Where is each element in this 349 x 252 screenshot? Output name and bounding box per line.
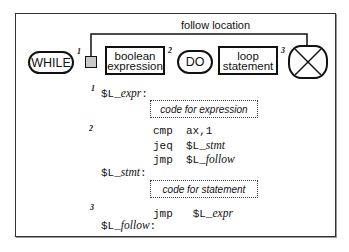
- label-stmt: $L_stmt:: [101, 166, 147, 179]
- do-node: DO: [177, 50, 213, 74]
- line-jmp-expr: jmp $L_expr: [153, 207, 233, 220]
- line-jmp-follow: jmp $L_follow: [153, 153, 235, 166]
- code-for-expression-box: code for expression: [150, 100, 258, 118]
- while-node: WHILE: [28, 51, 74, 74]
- code-for-statement-label: code for statement: [163, 184, 246, 195]
- end-x-icon: [288, 45, 328, 79]
- loop-statement-node: loop statement: [218, 46, 278, 75]
- boolean-label-line1: boolean: [115, 51, 156, 61]
- loop-label-line2: statement: [223, 61, 274, 71]
- entry-square-icon: [85, 56, 97, 68]
- marker-2: 2: [168, 46, 172, 55]
- marker-1: 1: [77, 47, 81, 56]
- code-for-expression-label: code for expression: [160, 104, 247, 115]
- marker-3: 3: [281, 46, 285, 55]
- while-label: WHILE: [31, 56, 71, 70]
- step-3-marker: 3: [90, 203, 94, 212]
- line-jeq: jeq $L_stmt: [153, 139, 225, 152]
- step-2-marker: 2: [89, 124, 93, 133]
- label-expr: $L_expr:: [101, 87, 148, 100]
- step-1-marker: 1: [91, 84, 95, 93]
- label-follow: $L_follow:: [101, 219, 156, 232]
- loop-label-line1: loop: [237, 51, 259, 61]
- code-for-statement-box: code for statement: [150, 180, 258, 198]
- boolean-label-line2: expression: [107, 61, 163, 71]
- follow-location-label: follow location: [181, 19, 250, 31]
- do-label: DO: [186, 55, 205, 69]
- boolean-expression-node: boolean expression: [105, 46, 165, 75]
- line-cmp: cmp ax,1: [153, 125, 212, 137]
